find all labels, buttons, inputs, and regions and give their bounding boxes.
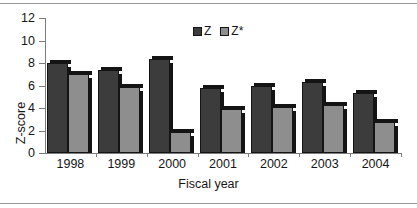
- legend-entry-Zstar[interactable]: Z*: [220, 25, 243, 37]
- x-tick-label-2004: 2004: [348, 158, 404, 171]
- x-tick-mark: [96, 153, 97, 157]
- x-tick-label-2001: 2001: [195, 158, 251, 171]
- x-tick-mark: [248, 153, 249, 157]
- x-tick-mark: [198, 153, 199, 157]
- y-axis-label: Z-score: [14, 79, 28, 167]
- legend-swatch-icon: [193, 27, 202, 36]
- figure-top-border: [0, 3, 417, 4]
- legend-label: Z: [204, 25, 211, 37]
- bar-Z-2003[interactable]: [302, 82, 323, 153]
- bar-Z-1999[interactable]: [98, 70, 119, 153]
- x-axis-line: [45, 153, 402, 154]
- bar-Zstar-1999[interactable]: [119, 87, 140, 153]
- x-axis-label: Fiscal year: [0, 177, 417, 191]
- x-tick-mark: [299, 153, 300, 157]
- bar-Z-2001[interactable]: [200, 88, 221, 153]
- bar-Zstar-2000[interactable]: [170, 132, 191, 153]
- bar-Zstar-2003[interactable]: [323, 105, 344, 153]
- y-tick-label: 12: [9, 12, 35, 25]
- x-tick-label-2002: 2002: [246, 158, 302, 171]
- bar-Zstar-2004[interactable]: [374, 122, 395, 154]
- x-tick-label-2003: 2003: [297, 158, 353, 171]
- chart-legend: ZZ*: [193, 25, 243, 37]
- x-tick-mark: [350, 153, 351, 157]
- bar-Zstar-2002[interactable]: [272, 107, 293, 153]
- bar-Z-2000[interactable]: [149, 59, 170, 154]
- bar-Z-2002[interactable]: [251, 86, 272, 154]
- x-tick-mark: [401, 153, 402, 157]
- x-tick-label-1998: 1998: [42, 158, 98, 171]
- x-tick-label-2000: 2000: [144, 158, 200, 171]
- y-axis-label-wrap: Z-score: [6, 52, 36, 112]
- legend-label: Z*: [231, 25, 243, 37]
- figure-bottom-border: [0, 203, 417, 204]
- bar-Z-1998[interactable]: [47, 63, 68, 153]
- legend-swatch-icon: [220, 27, 229, 36]
- y-tick-label: 10: [9, 35, 35, 48]
- bar-Zstar-1998[interactable]: [68, 74, 89, 153]
- bar-Z-2004[interactable]: [353, 93, 374, 153]
- x-tick-mark: [147, 153, 148, 157]
- x-tick-label-1999: 1999: [93, 158, 149, 171]
- legend-entry-Z[interactable]: Z: [193, 25, 211, 37]
- bar-Zstar-2001[interactable]: [221, 109, 242, 153]
- plot-area: [45, 18, 401, 153]
- chart-figure: 024681012 Z-score 1998199920002001200220…: [0, 0, 417, 208]
